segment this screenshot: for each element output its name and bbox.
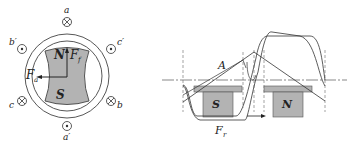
coil-c-prime-dot-icon [107,45,116,54]
machine-diagram: N F f F a S a a′ b′ c′ [0,0,355,149]
coil-b-prime-dot-icon [18,45,27,54]
coil-b-cross-icon [107,97,116,106]
resultant-mmf-label: F [214,124,223,137]
north-pole-label: N [53,48,66,62]
coil-b-label: b [117,100,123,110]
coil-a-prime-label: a′ [63,132,70,142]
coil-c-prime-label: c′ [117,37,124,47]
developed-gap-figure: S N A F r [162,32,347,139]
coil-a-prime-dot-icon [63,122,72,131]
rotation-arrow-head [261,114,266,118]
coil-a-cross-icon [63,18,72,27]
north-pole-label: N [281,98,293,111]
south-pole-label: S [56,88,65,102]
coil-b-prime-label: b′ [9,37,17,47]
coil-c-cross-icon [18,97,27,106]
armature-vector-sub: a [34,76,38,84]
south-pole-label: S [212,98,220,111]
resultant-mmf-sub: r [223,131,227,139]
coil-a-label: a [64,5,69,15]
armature-mmf-label: A [217,59,226,72]
coil-c-label: c [9,100,14,110]
stator-rotor-figure: N F f F a S a a′ b′ c′ [9,5,124,142]
